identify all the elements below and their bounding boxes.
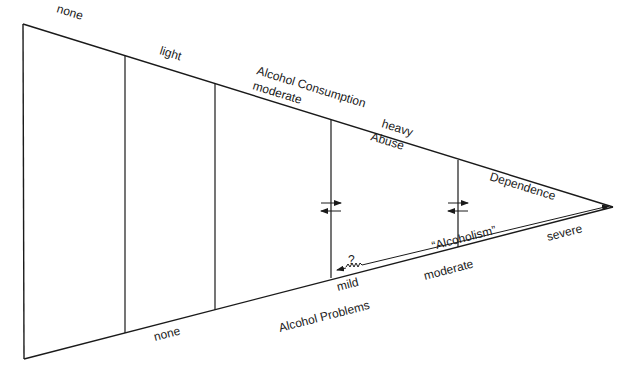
alcoholism-label: “Alcoholism” — [430, 223, 497, 253]
consumption-none-label: none — [55, 1, 85, 22]
problems-none-label: none — [152, 324, 182, 344]
alcohol-continuum-diagram: none light Alcohol Consumption moderate … — [0, 0, 632, 376]
left-edge — [23, 24, 24, 359]
dependence-label: Dependence — [488, 169, 557, 203]
consumption-light-label: light — [158, 43, 184, 63]
problems-moderate-label: moderate — [422, 257, 475, 283]
problems-severe-label: severe — [545, 221, 584, 244]
uncertainty-mark: ? — [348, 253, 355, 267]
problems-title: Alcohol Problems — [277, 298, 371, 335]
bottom-edge — [24, 207, 613, 359]
arrow-left-icon — [337, 268, 346, 270]
